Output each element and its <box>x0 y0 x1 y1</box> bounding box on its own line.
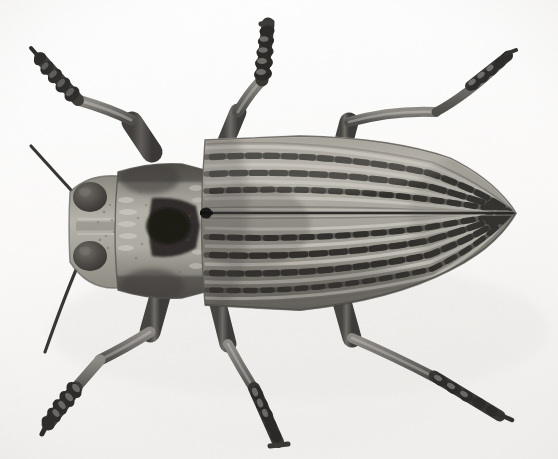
beetle-photo-canvas <box>0 0 558 459</box>
film-grain-overlay <box>0 0 558 459</box>
specimen-photograph: beetle-specimen-dorsal-view metallic woo… <box>0 0 558 459</box>
